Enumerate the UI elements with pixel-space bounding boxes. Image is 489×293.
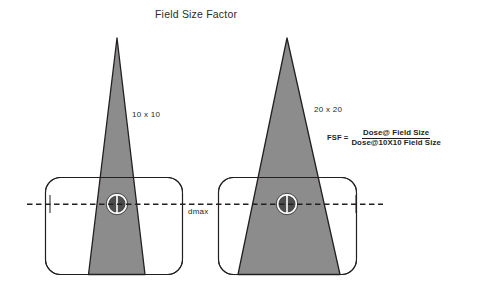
beam-setup-left [46, 38, 183, 275]
fsf-formula-lhs: FSF = [327, 134, 348, 143]
beam-cone-left [89, 38, 146, 275]
field-size-label-right: 20 x 20 [314, 105, 342, 114]
beam-cone-right [238, 38, 340, 275]
page-title: Field Size Factor [155, 8, 237, 20]
fsf-formula: FSF = Dose@ Field Size Dose@10X10 Field … [327, 129, 441, 148]
fsf-formula-numerator: Dose@ Field Size [362, 129, 430, 139]
fsf-formula-fraction: Dose@ Field Size Dose@10X10 Field Size [351, 129, 440, 148]
dmax-label: dmax [188, 207, 208, 216]
beam-setup-right [219, 38, 357, 275]
field-size-label-left: 10 x 10 [132, 110, 160, 119]
fsf-formula-denominator: Dose@10X10 Field Size [351, 139, 440, 148]
field-size-factor-diagram: Field Size Factor 10 x 10 20 x 20 dmax F… [0, 0, 489, 293]
